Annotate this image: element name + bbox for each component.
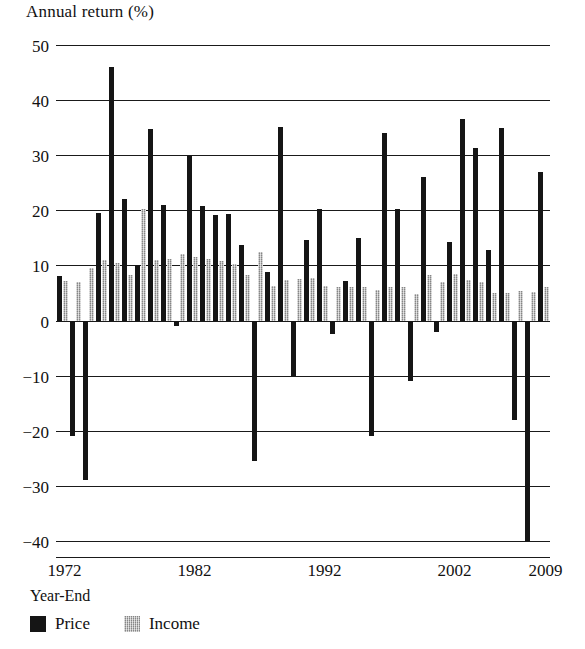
legend-swatch-income-icon bbox=[124, 616, 140, 632]
bar-group bbox=[421, 45, 432, 541]
bar-income bbox=[518, 291, 523, 320]
bar-price bbox=[525, 321, 530, 541]
bar-income bbox=[362, 287, 367, 320]
bar-group bbox=[109, 45, 120, 541]
x-axis-tick-label: 2009 bbox=[529, 561, 563, 581]
bar-group bbox=[278, 45, 289, 541]
bar-income bbox=[232, 264, 237, 321]
bar-group bbox=[460, 45, 471, 541]
y-axis-tick-label: 10 bbox=[32, 258, 49, 275]
y-axis-title: Annual return (%) bbox=[26, 2, 154, 22]
bar-group bbox=[239, 45, 250, 541]
bar-price bbox=[369, 321, 374, 437]
bar-income bbox=[427, 275, 432, 321]
bar-group bbox=[122, 45, 133, 541]
bar-group bbox=[395, 45, 406, 541]
bar-group bbox=[148, 45, 159, 541]
bar-price bbox=[239, 245, 244, 321]
x-axis-tick-label: 1982 bbox=[178, 561, 212, 581]
bar-group bbox=[473, 45, 484, 541]
bar-income bbox=[440, 282, 445, 321]
bar-price bbox=[187, 156, 192, 320]
x-axis-line bbox=[56, 557, 550, 558]
bar-group bbox=[408, 45, 419, 541]
bar-income bbox=[128, 275, 133, 320]
bar-group bbox=[499, 45, 510, 541]
bar-income bbox=[193, 257, 198, 320]
y-axis-tick-label: 20 bbox=[32, 203, 49, 220]
legend-item-income[interactable]: Income bbox=[124, 615, 200, 632]
bar-income bbox=[284, 280, 289, 321]
x-axis-title: Year-End bbox=[30, 587, 90, 605]
bar-group bbox=[486, 45, 497, 541]
bar-income bbox=[505, 293, 510, 321]
bar-group bbox=[447, 45, 458, 541]
x-axis-tick-label: 1972 bbox=[48, 561, 82, 581]
bar-price bbox=[486, 250, 491, 321]
x-axis-tick-label: 1992 bbox=[308, 561, 342, 581]
y-axis-tick-label: −40 bbox=[22, 534, 49, 551]
bar-income bbox=[310, 278, 315, 320]
bar-price bbox=[291, 321, 296, 376]
bar-group bbox=[200, 45, 211, 541]
bar-price bbox=[213, 215, 218, 321]
bar-income bbox=[89, 268, 94, 320]
bar-group bbox=[356, 45, 367, 541]
bar-income bbox=[492, 293, 497, 321]
bar-price bbox=[200, 206, 205, 321]
bar-price bbox=[538, 172, 543, 321]
bar-group bbox=[525, 45, 536, 541]
bar-price bbox=[265, 272, 270, 320]
bar-group bbox=[226, 45, 237, 541]
bar-price bbox=[122, 199, 127, 320]
bar-price bbox=[252, 321, 257, 462]
bar-income bbox=[531, 292, 536, 320]
bar-price bbox=[70, 321, 75, 437]
bar-income bbox=[401, 287, 406, 321]
bar-price bbox=[161, 205, 166, 321]
bar-income bbox=[115, 263, 120, 321]
bar-group bbox=[213, 45, 224, 541]
gridline: −40 bbox=[56, 541, 550, 542]
bar-price bbox=[83, 321, 88, 481]
legend-item-price[interactable]: Price bbox=[30, 615, 90, 632]
bar-group bbox=[291, 45, 302, 541]
y-axis-tick-label: 50 bbox=[32, 38, 49, 55]
bar-group bbox=[317, 45, 328, 541]
y-axis-tick-label: 30 bbox=[32, 148, 49, 165]
bar-group bbox=[265, 45, 276, 541]
bar-income bbox=[297, 279, 302, 321]
bar-income bbox=[219, 261, 224, 321]
y-axis-tick-label: −10 bbox=[22, 368, 49, 385]
y-axis-tick-label: 0 bbox=[41, 313, 50, 330]
bar-price bbox=[278, 127, 283, 321]
bar-price bbox=[460, 119, 465, 320]
bar-price bbox=[447, 242, 452, 321]
bar-price bbox=[408, 321, 413, 382]
x-axis-tick-label: 2002 bbox=[438, 561, 472, 581]
bar-income bbox=[63, 281, 68, 320]
bar-income bbox=[154, 260, 159, 321]
bar-income bbox=[258, 252, 263, 321]
bar-income bbox=[349, 287, 354, 320]
bar-income bbox=[388, 287, 393, 321]
bar-group bbox=[83, 45, 94, 541]
bar-group bbox=[382, 45, 393, 541]
legend-label: Income bbox=[149, 615, 200, 632]
chart-legend: PriceIncome bbox=[30, 615, 200, 632]
y-axis-tick-label: −20 bbox=[22, 423, 49, 440]
bar-price bbox=[473, 148, 478, 320]
bar-group bbox=[252, 45, 263, 541]
bar-price bbox=[395, 209, 400, 320]
bar-income bbox=[375, 290, 380, 321]
legend-label: Price bbox=[55, 615, 90, 632]
bar-income bbox=[180, 254, 185, 320]
bar-group bbox=[512, 45, 523, 541]
bar-income bbox=[336, 287, 341, 320]
bar-group bbox=[70, 45, 81, 541]
bar-group bbox=[369, 45, 380, 541]
bar-price bbox=[226, 214, 231, 320]
bar-income bbox=[544, 287, 549, 320]
bar-group bbox=[343, 45, 354, 541]
bar-group bbox=[187, 45, 198, 541]
